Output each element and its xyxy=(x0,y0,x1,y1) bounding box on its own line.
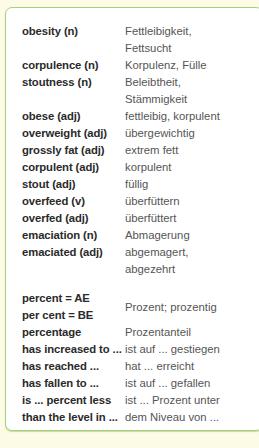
vocab-row: obese (adj) fettleibig, korpulent xyxy=(22,108,220,125)
english-term: has reached ... xyxy=(22,358,125,375)
english-term: corpulence (n) xyxy=(22,57,125,74)
phrase-row: has reached ... hat ... erreicht xyxy=(22,358,194,375)
english-term: percent = AE per cent = BE xyxy=(22,290,125,324)
german-translation: ist ... Prozent unter xyxy=(125,392,220,409)
german-translation: korpulent xyxy=(125,159,171,176)
german-translation: dem Niveau von ... xyxy=(125,409,219,426)
percent-row: percent = AE per cent = BE Prozent; proz… xyxy=(22,290,217,324)
american-english-term: percent = AE xyxy=(22,290,125,307)
english-term: emaciated (adj) xyxy=(22,244,125,278)
english-term: overfed (adj) xyxy=(22,210,125,227)
german-translation: ist auf ... gefallen xyxy=(125,375,210,392)
german-translation: Korpulenz, Fülle xyxy=(125,57,207,74)
german-translation: fettleibig, korpulent xyxy=(125,108,220,125)
vocab-row: corpulence (n) Korpulenz, Fülle xyxy=(22,57,207,74)
vocab-row: overfed (adj) überfüttert xyxy=(22,210,177,227)
english-term: than the level in ... xyxy=(22,409,125,426)
german-translation: Fettleibigkeit, Fettsucht xyxy=(125,23,192,57)
english-term: corpulent (adj) xyxy=(22,159,125,176)
german-translation: extrem fett xyxy=(125,142,178,159)
german-translation: Prozent; prozentig xyxy=(125,299,217,316)
english-term: overfeed (v) xyxy=(22,193,125,210)
phrase-row: has fallen to ... ist auf ... gefallen xyxy=(22,375,210,392)
translation-line: Beleibtheit, xyxy=(125,74,187,91)
german-translation: übergewichtig xyxy=(125,125,195,142)
english-term: has increased to ... xyxy=(22,341,125,358)
german-translation: Prozentanteil xyxy=(125,324,191,341)
vocab-row: emaciation (n) Abmagerung xyxy=(22,227,190,244)
english-term: obese (adj) xyxy=(22,108,125,125)
vocab-row: grossly fat (adj) extrem fett xyxy=(22,142,178,159)
vocab-row: stout (adj) füllig xyxy=(22,176,148,193)
vocab-row: emaciated (adj) abgemagert, abgezehrt xyxy=(22,244,188,278)
english-term: has fallen to ... xyxy=(22,375,125,392)
phrase-row: than the level in ... dem Niveau von ... xyxy=(22,409,219,426)
vocabulary-card: obesity (n) Fettleibigkeit, Fettsucht co… xyxy=(5,7,259,431)
german-translation: hat ... erreicht xyxy=(125,358,194,375)
phrase-row: percentage Prozentanteil xyxy=(22,324,191,341)
vocab-row: stoutness (n) Beleibtheit, Stämmigkeit xyxy=(22,74,187,108)
translation-line: Fettleibigkeit, xyxy=(125,23,192,40)
vocab-row: obesity (n) Fettleibigkeit, Fettsucht xyxy=(22,23,192,57)
english-term: is ... percent less xyxy=(22,392,125,409)
translation-line: abgezehrt xyxy=(125,261,188,278)
vocab-row: overfeed (v) überfüttern xyxy=(22,193,180,210)
german-translation: überfüttert xyxy=(125,210,177,227)
english-term: percentage xyxy=(22,324,125,341)
english-term: grossly fat (adj) xyxy=(22,142,125,159)
translation-line: abgemagert, xyxy=(125,244,188,261)
german-translation: Beleibtheit, Stämmigkeit xyxy=(125,74,187,108)
translation-line: Stämmigkeit xyxy=(125,91,187,108)
british-english-term: per cent = BE xyxy=(22,307,125,324)
english-term: emaciation (n) xyxy=(22,227,125,244)
english-term: obesity (n) xyxy=(22,23,125,57)
vocab-row: corpulent (adj) korpulent xyxy=(22,159,171,176)
english-term: stoutness (n) xyxy=(22,74,125,108)
german-translation: Abmagerung xyxy=(125,227,190,244)
german-translation: ist auf ... gestiegen xyxy=(125,341,220,358)
english-term: overweight (adj) xyxy=(22,125,125,142)
phrase-row: is ... percent less ist ... Prozent unte… xyxy=(22,392,220,409)
german-translation: abgemagert, abgezehrt xyxy=(125,244,188,278)
german-translation: füllig xyxy=(125,176,148,193)
vocab-row: overweight (adj) übergewichtig xyxy=(22,125,195,142)
english-term: stout (adj) xyxy=(22,176,125,193)
german-translation: überfüttern xyxy=(125,193,180,210)
translation-line: Fettsucht xyxy=(125,40,192,57)
phrase-row: has increased to ... ist auf ... gestieg… xyxy=(22,341,220,358)
